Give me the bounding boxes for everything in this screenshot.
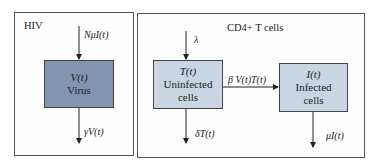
uninfected-out-label: δT(t) — [195, 128, 215, 139]
uninfected-label-1: Uninfected — [164, 78, 213, 91]
infected-symbol: I(t) — [306, 68, 320, 81]
virus-symbol: V(t) — [70, 71, 87, 84]
uninfected-symbol: T(t) — [180, 65, 197, 78]
virus-out-label: γV(t) — [84, 126, 104, 137]
infected-node: I(t) Infected cells — [279, 63, 348, 112]
uninfected-in-label: λ — [194, 34, 198, 45]
uninfected-label-2: cells — [178, 91, 198, 104]
infection-label: β V(t)T(t) — [228, 74, 266, 85]
infected-label-1: Infected — [295, 81, 331, 94]
virus-in-label: NμI(t) — [84, 29, 108, 40]
virus-node: V(t) Virus — [44, 60, 114, 108]
uninfected-node: T(t) Uninfected cells — [153, 60, 223, 109]
virus-label: Virus — [67, 84, 91, 97]
infected-out-label: μI(t) — [326, 130, 344, 141]
infected-label-2: cells — [303, 94, 323, 107]
